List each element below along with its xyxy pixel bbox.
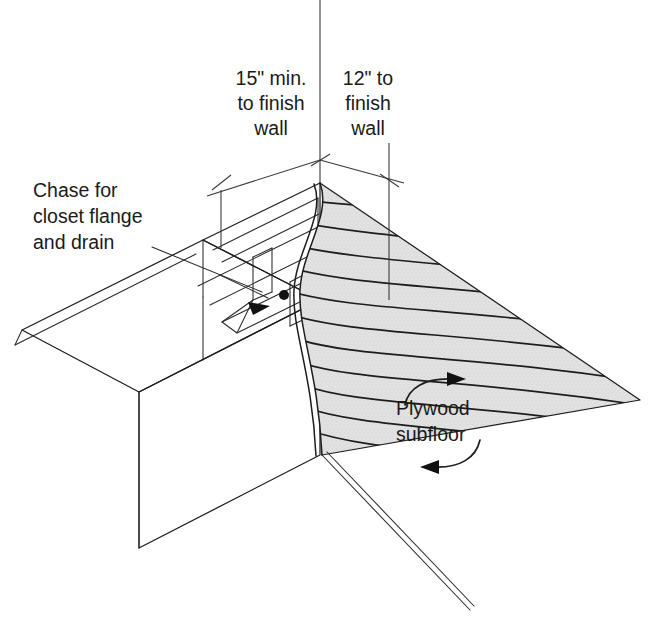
chase-callout-line2: closet flange (33, 205, 143, 227)
dimension-label-left-line2: to finish (237, 92, 304, 114)
dimension-label-right-line3: wall (350, 117, 385, 139)
plywood-subfloor-group (288, 183, 659, 610)
plywood-callout-line2: subfloor (396, 423, 466, 445)
grain-line (320, 475, 659, 526)
dimension-label-left: 15" min. to finish wall (236, 67, 307, 139)
chase-callout-line1: Chase for (33, 179, 118, 201)
bay-edge-top (253, 248, 272, 257)
dimension-label-right-line2: finish (345, 92, 391, 114)
curved-arrow-lower-head (420, 460, 439, 474)
chase-callout-line3: and drain (33, 231, 114, 253)
chase-leader-line-secondary (220, 275, 268, 298)
rim-joist-edge-line (15, 254, 196, 345)
chase-callout-group (152, 247, 289, 315)
chase-callout-label: Chase for closet flange and drain (33, 179, 143, 253)
chase-rail-top-inner (213, 198, 318, 250)
grain-line (312, 452, 659, 504)
dimension-label-left-line3: wall (253, 117, 288, 139)
dimension-line-right (320, 160, 404, 183)
rim-joist-top-face (22, 240, 320, 392)
dimension-label-right-line1: 12" to (343, 67, 393, 89)
rim-joist-band (15, 240, 320, 392)
plywood-thickness-edge-b (327, 452, 474, 606)
chase-leader-line (152, 247, 262, 292)
chase-framing-isometric-drawing: Chase framing for closet flange and drai… (0, 0, 659, 625)
diagram-canvas: Chase framing for closet flange and drai… (0, 0, 659, 625)
dimension-label-left-line1: 15" min. (236, 67, 307, 89)
plywood-callout-line1: Plywood (396, 397, 470, 419)
plywood-top-face (300, 183, 640, 455)
chase-opening-outline (222, 300, 253, 333)
dimension-label-right: 12" to finish wall (343, 67, 393, 139)
plywood-thickness-edge-a (322, 455, 470, 610)
dimension-tick-left (212, 175, 231, 190)
joist-outer-face (139, 300, 320, 548)
drain-point-icon (279, 290, 289, 300)
